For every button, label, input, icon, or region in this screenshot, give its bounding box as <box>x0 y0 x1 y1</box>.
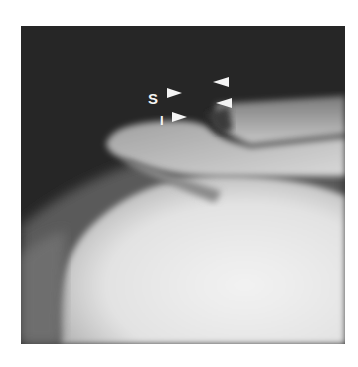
arrowhead-left-icon <box>216 98 232 108</box>
arrowhead-right-icon <box>172 112 187 122</box>
arrowhead-left-icon <box>213 77 229 87</box>
label-i: I <box>160 114 164 127</box>
arrowhead-right-icon <box>167 88 182 98</box>
xray-figure: S I <box>21 26 345 344</box>
label-s: S <box>148 91 158 106</box>
xray-image <box>21 26 345 344</box>
